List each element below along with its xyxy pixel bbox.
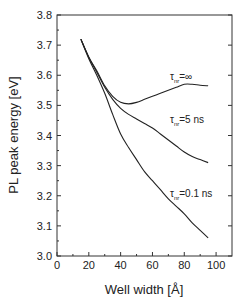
plot-frame [57, 15, 232, 256]
x-tick-label: 0 [54, 259, 60, 271]
x-tick-label: 60 [146, 259, 158, 271]
x-axis-ticks: 020406080100 [54, 252, 225, 271]
y-tick-label: 3.6 [37, 69, 52, 81]
y-tick-label: 3.4 [37, 130, 52, 142]
x-tick-label: 100 [207, 259, 225, 271]
series-label: τnr=5 ns [170, 114, 204, 127]
x-tick-label: 80 [178, 259, 190, 271]
x-axis-label: Well width [Å] [105, 282, 184, 297]
y-axis-ticks: 3.03.13.23.33.43.53.63.73.8 [37, 9, 232, 262]
y-tick-label: 3.5 [37, 99, 52, 111]
y-axis-label: PL peak energy [eV] [6, 76, 21, 193]
series-label: τnr=∞ [170, 71, 192, 84]
series-annotations: τnr=∞τnr=5 nsτnr=0.1 ns [170, 71, 212, 201]
y-tick-label: 3.0 [37, 250, 52, 262]
y-tick-label: 3.3 [37, 160, 52, 172]
y-tick-label: 3.1 [37, 220, 52, 232]
line-chart: 3.03.13.23.33.43.53.63.73.8 020406080100… [0, 0, 246, 308]
x-tick-label: 20 [83, 259, 95, 271]
y-tick-label: 3.2 [37, 190, 52, 202]
y-tick-label: 3.7 [37, 39, 52, 51]
series-label: τnr=0.1 ns [170, 188, 212, 201]
series-curves [81, 39, 208, 238]
series-line-1 [81, 39, 208, 163]
x-tick-label: 40 [115, 259, 127, 271]
series-line-2 [81, 39, 208, 238]
y-tick-label: 3.8 [37, 9, 52, 21]
